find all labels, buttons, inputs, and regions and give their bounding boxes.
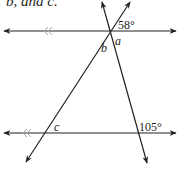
angle-58-label: 58° (118, 19, 135, 31)
angle-105-label: 105° (139, 121, 162, 133)
diagram-canvas (0, 0, 180, 169)
transversal-line-2 (26, 2, 130, 162)
angle-a-label: a (115, 35, 121, 47)
angle-c-label: c (54, 121, 59, 133)
angle-b-label: b (101, 42, 107, 54)
geometry-diagram: b, and c. 58° a b c 105° (0, 0, 180, 169)
caption-text: b, and c. (6, 0, 58, 9)
